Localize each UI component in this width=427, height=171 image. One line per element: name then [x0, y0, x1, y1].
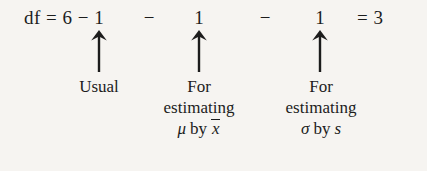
label-sigma-line-2: estimating	[262, 97, 380, 118]
label-sigma-line-1: For	[262, 76, 380, 97]
label-estimating-mu: For estimating μbyx	[140, 76, 258, 139]
label-sigma-line-3: σbys	[262, 118, 380, 139]
up-arrow-icon	[88, 29, 110, 73]
mu-symbol: μ	[177, 119, 186, 138]
equation-minus-sign-1: −	[136, 4, 162, 32]
x-bar-symbol: x	[211, 118, 221, 139]
up-arrow-icon	[309, 29, 331, 73]
mu-by-word: by	[190, 119, 207, 138]
equation-line: df = 6 − 1 − 1 − 1 = 3	[0, 4, 427, 32]
label-mu-line-2: estimating	[140, 97, 258, 118]
up-arrow-icon	[188, 29, 210, 73]
label-estimating-sigma: For estimating σbys	[262, 76, 380, 139]
label-usual: Usual	[49, 76, 149, 97]
label-mu-line-1: For	[140, 76, 258, 97]
sigma-by-word: by	[313, 119, 330, 138]
equation-term-one-2: 1	[307, 4, 333, 32]
label-usual-line-1: Usual	[49, 76, 149, 97]
label-mu-line-3: μbyx	[140, 118, 258, 139]
equation-term-one-1: 1	[186, 4, 212, 32]
s-symbol: s	[334, 119, 341, 138]
equation-right-hand-side: = 3	[357, 4, 417, 32]
equation-left-hand-side: df = 6 − 1	[24, 4, 144, 32]
sigma-symbol: σ	[301, 119, 309, 138]
equation-minus-sign-2: −	[252, 4, 278, 32]
df-figure: df = 6 − 1 − 1 − 1 = 3 Usual For estimat…	[0, 0, 427, 171]
